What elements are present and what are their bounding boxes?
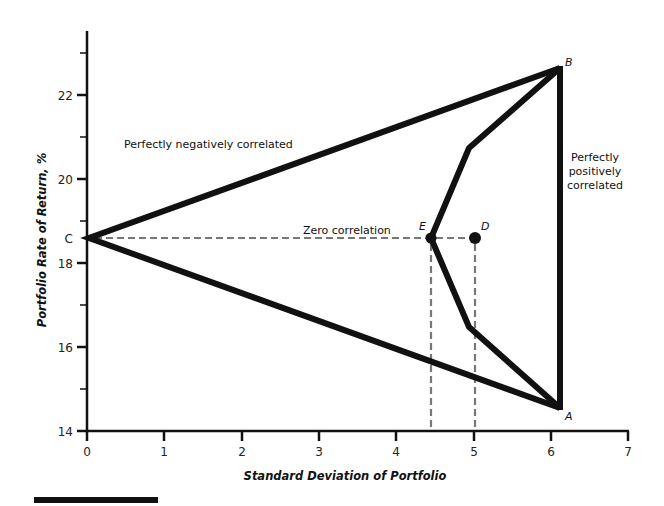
point-label-e: E <box>419 220 426 233</box>
y-axis-title: Portfolio Rate of Return, % <box>35 153 49 328</box>
annotation-zero-correlation: Zero correlation <box>303 224 391 237</box>
y-tick-label-14: 14 <box>58 425 73 439</box>
x-tick-label-7: 7 <box>624 445 632 459</box>
point-label-d: D <box>481 220 489 233</box>
x-axis-title: Standard Deviation of Portfolio <box>244 469 447 483</box>
point-e-marker <box>426 233 437 244</box>
point-d-marker <box>469 232 481 244</box>
x-tick-label-0: 0 <box>83 445 91 459</box>
point-label-c: C <box>65 232 73 246</box>
y-tick-label-18: 18 <box>58 257 73 271</box>
point-label-b: B <box>565 56 573 69</box>
x-ticks <box>87 431 628 441</box>
portfolio-risk-return-chart: 14 16 18 20 22 0 1 2 3 4 5 6 7 Standard … <box>0 0 664 506</box>
annotation-positively-correlated-1: Perfectly <box>571 151 620 164</box>
x-tick-label-4: 4 <box>392 445 400 459</box>
x-tick-label-5: 5 <box>470 445 478 459</box>
dashed-guides <box>95 238 475 431</box>
annotation-positively-correlated-2: positively <box>569 165 622 178</box>
annotation-negatively-correlated: Perfectly negatively correlated <box>124 138 293 151</box>
negative-correlation-line <box>89 68 560 408</box>
y-tick-label-20: 20 <box>58 173 73 187</box>
y-tick-label-22: 22 <box>58 89 73 103</box>
y-major-ticks <box>77 95 87 431</box>
x-tick-label-3: 3 <box>315 445 323 459</box>
y-tick-label-16: 16 <box>58 341 73 355</box>
frontier-lines <box>89 66 560 410</box>
decorative-bar <box>34 497 158 503</box>
x-tick-label-1: 1 <box>160 445 168 459</box>
x-tick-label-2: 2 <box>238 445 246 459</box>
annotation-positively-correlated-3: correlated <box>567 179 623 192</box>
x-tick-label-6: 6 <box>547 445 555 459</box>
point-label-a: A <box>564 410 573 423</box>
